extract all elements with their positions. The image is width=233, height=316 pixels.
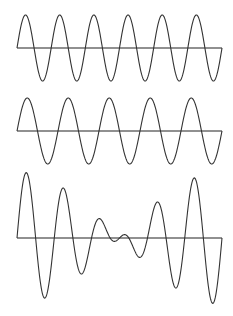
wave-group-1 (17, 15, 222, 81)
waveform-diagram (0, 0, 233, 316)
wave-group-2 (17, 98, 222, 164)
wave-group-3 (17, 173, 222, 304)
